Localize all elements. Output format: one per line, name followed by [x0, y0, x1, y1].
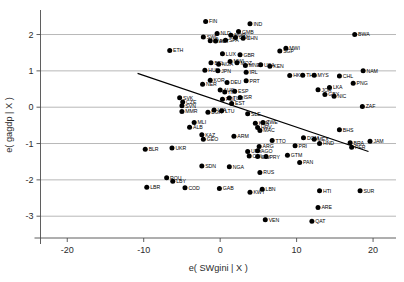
point-marker: [200, 82, 205, 87]
point-label: PRY: [269, 154, 280, 160]
data-point: PAN: [297, 159, 313, 165]
point-marker: [312, 73, 317, 78]
point-marker: [247, 190, 252, 195]
data-point: PRT: [244, 78, 261, 84]
data-point: ARE: [316, 204, 333, 210]
point-label: HND: [323, 140, 334, 146]
point-label: JAM: [373, 138, 383, 144]
point-marker: [253, 121, 258, 126]
point-label: COD: [188, 185, 200, 191]
data-point: ARM: [231, 133, 248, 139]
data-point: FIN: [203, 18, 217, 24]
point-marker: [317, 188, 322, 193]
point-label: CHL: [343, 73, 353, 79]
point-marker: [349, 145, 354, 150]
point-label: LTU: [225, 108, 235, 114]
point-marker: [182, 185, 187, 190]
point-marker: [332, 94, 337, 99]
point-marker: [143, 147, 148, 152]
point-marker: [225, 80, 230, 85]
point-marker: [277, 48, 282, 53]
point-label: ARE: [321, 204, 332, 210]
point-marker: [199, 164, 204, 169]
data-point: SDN: [199, 163, 216, 169]
point-label: PNG: [357, 80, 368, 86]
x-axis-title: e( SWgini | X ): [189, 263, 248, 273]
point-marker: [201, 35, 206, 40]
data-point: LUX: [220, 51, 236, 57]
data-point: LBY: [170, 178, 186, 184]
point-label: JPN: [221, 68, 231, 74]
data-point: DEU: [225, 79, 242, 85]
data-point: GAB: [217, 185, 234, 191]
point-marker: [263, 217, 268, 222]
point-marker: [293, 143, 298, 148]
point-marker: [244, 78, 249, 83]
point-marker: [322, 92, 327, 97]
point-label: BGR: [211, 109, 222, 115]
point-marker: [267, 64, 272, 69]
data-point: JAM: [368, 138, 384, 144]
point-marker: [179, 103, 184, 108]
point-marker: [169, 145, 174, 150]
data-point: BWA: [352, 31, 370, 37]
data-point: MYS: [312, 72, 330, 78]
x-tick-label: 0: [218, 245, 223, 255]
y-tick-label: 1: [28, 66, 33, 76]
point-marker: [301, 135, 306, 140]
point-label: MMR: [185, 108, 198, 114]
data-point: PER: [349, 144, 366, 150]
point-marker: [213, 39, 218, 44]
point-label: GEO: [207, 136, 218, 142]
point-label: ALB: [193, 124, 203, 130]
point-label: IND: [253, 21, 262, 27]
data-point: UKR: [169, 145, 186, 151]
data-point: MAC: [257, 127, 275, 133]
point-marker: [229, 101, 234, 106]
point-marker: [243, 63, 248, 68]
data-point: GEO: [201, 136, 218, 142]
point-marker: [316, 87, 321, 92]
data-point: PRI: [293, 143, 307, 149]
data-point: IND: [247, 21, 262, 27]
point-marker: [317, 141, 322, 146]
point-marker: [234, 60, 239, 65]
point-label: LBR: [150, 184, 160, 190]
point-label: DOM: [307, 135, 319, 141]
point-marker: [203, 19, 208, 24]
point-label: NIC: [337, 93, 346, 99]
data-point: MNE: [243, 62, 261, 68]
point-label: QAT: [315, 218, 326, 224]
x-tick-label: 20: [368, 245, 378, 255]
y-tick-label: -1: [25, 139, 33, 149]
data-point: NAM: [361, 68, 378, 74]
point-marker: [241, 36, 246, 41]
point-label: BHS: [343, 127, 354, 133]
point-marker: [297, 160, 302, 165]
point-label: CHN: [246, 35, 257, 41]
y-axis-title: e( gagdp | X ): [4, 97, 14, 153]
data-point: EST: [229, 100, 246, 106]
point-label: BWA: [358, 31, 370, 37]
point-marker: [247, 153, 252, 158]
point-marker: [228, 59, 233, 64]
data-point: SLE: [245, 111, 261, 117]
point-marker: [222, 89, 227, 94]
data-point: BHS: [337, 127, 354, 133]
data-point: COD: [182, 185, 200, 191]
point-label: KEN: [273, 63, 284, 69]
data-point: BGR: [205, 109, 222, 115]
point-marker: [220, 97, 225, 102]
point-marker: [199, 132, 204, 137]
point-label: LKA: [333, 84, 343, 90]
point-marker: [337, 73, 342, 78]
data-point: SGP: [277, 48, 294, 54]
point-marker: [285, 153, 290, 158]
data-point: GTM: [285, 152, 302, 158]
point-marker: [164, 175, 169, 180]
y-tick-label: 2: [28, 30, 33, 40]
x-tick-label: 10: [292, 245, 302, 255]
point-marker: [348, 140, 353, 145]
point-label: PRI: [298, 143, 307, 149]
point-marker: [368, 139, 373, 144]
